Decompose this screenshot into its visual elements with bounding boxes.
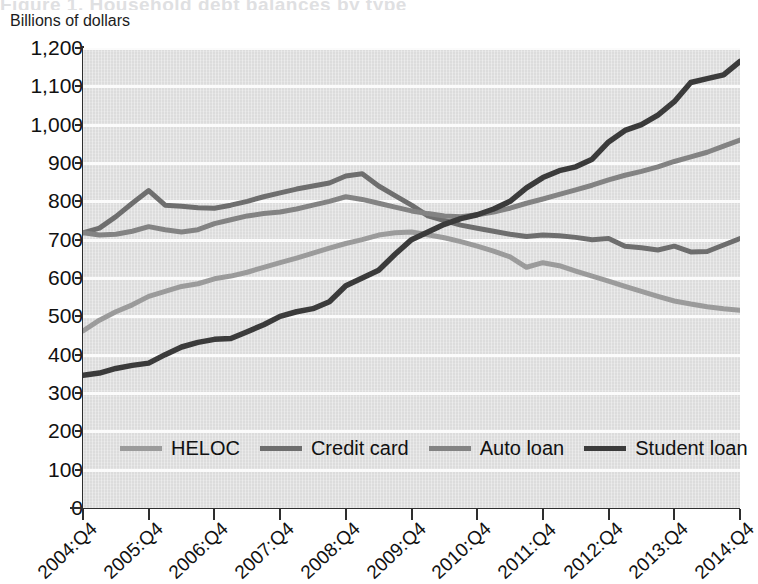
- x-axis-tick: [279, 509, 281, 520]
- legend-label: Credit card: [311, 437, 409, 460]
- y-axis-tick-label: 1,200: [9, 37, 83, 58]
- x-axis-tick-label: 2013:Q4: [625, 518, 693, 584]
- x-axis-tick-label: 2007:Q4: [230, 518, 298, 584]
- x-axis-tick: [345, 509, 347, 520]
- x-axis-tick-label: 2010:Q4: [428, 518, 496, 584]
- y-axis-tick-label: 800: [9, 190, 83, 211]
- x-axis-tick: [411, 509, 413, 520]
- series-line-student-loan: [83, 61, 740, 375]
- y-axis-tick-label: 700: [9, 229, 83, 250]
- y-axis-tick-label: 600: [9, 267, 83, 288]
- y-axis-tick-label: 100: [9, 459, 83, 480]
- x-axis-tick: [542, 509, 544, 520]
- legend-swatch-icon: [584, 446, 626, 451]
- x-axis-tick: [476, 509, 478, 520]
- legend-item-auto-loan[interactable]: Auto loan: [429, 437, 565, 460]
- y-axis-tick-label: 300: [9, 382, 83, 403]
- x-axis-tick-label: 2006:Q4: [165, 518, 233, 584]
- x-axis-tick: [82, 509, 84, 520]
- x-axis-tick-label: 2008:Q4: [296, 518, 364, 584]
- x-axis-tick-label: 2009:Q4: [362, 518, 430, 584]
- legend-swatch-icon: [429, 446, 471, 451]
- x-axis-tick-label: 2014:Q4: [690, 518, 758, 584]
- x-axis-tick-label: 2012:Q4: [559, 518, 627, 584]
- y-axis: 01002003004005006007008009001,0001,1001,…: [0, 0, 83, 574]
- y-axis-tick-label: 200: [9, 420, 83, 441]
- x-axis-tick: [739, 509, 741, 520]
- chart-legend: HELOCCredit cardAuto loanStudent loan: [120, 437, 758, 460]
- x-axis-tick: [608, 509, 610, 520]
- legend-swatch-icon: [260, 446, 302, 451]
- legend-label: HELOC: [171, 437, 240, 460]
- x-axis-tick-label: 2005:Q4: [99, 518, 167, 584]
- x-axis-tick: [673, 509, 675, 520]
- legend-item-heloc[interactable]: HELOC: [120, 437, 240, 460]
- y-axis-tick-label: 400: [9, 344, 83, 365]
- legend-label: Auto loan: [480, 437, 565, 460]
- x-axis-tick-label: 2011:Q4: [493, 519, 560, 584]
- y-axis-tick-label: 900: [9, 152, 83, 173]
- series-line-auto-loan: [83, 140, 740, 235]
- legend-label: Student loan: [635, 437, 747, 460]
- y-axis-tick-label: 1,100: [9, 75, 83, 96]
- x-axis-tick: [148, 509, 150, 520]
- legend-item-student-loan[interactable]: Student loan: [584, 437, 747, 460]
- legend-item-credit-card[interactable]: Credit card: [260, 437, 409, 460]
- ghost-title-strip: Figure 1. Household debt balances by typ…: [0, 0, 748, 10]
- y-axis-tick-label: 1,000: [9, 114, 83, 135]
- legend-swatch-icon: [120, 446, 162, 451]
- y-axis-tick-label: 500: [9, 305, 83, 326]
